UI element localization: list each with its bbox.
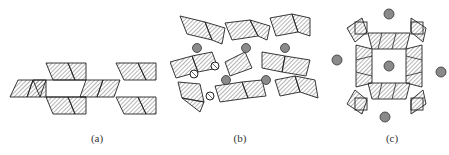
- caption-c: (c): [372, 132, 412, 144]
- ring-diagram: [325, 0, 449, 125]
- panel-b: (b): [170, 0, 320, 125]
- panel-a: (a): [0, 0, 160, 155]
- framework-diagram: [170, 0, 320, 125]
- panel-c: (c): [325, 0, 449, 125]
- figure: (a): [0, 0, 449, 155]
- caption-a: (a): [77, 132, 117, 144]
- caption-b: (b): [220, 132, 260, 144]
